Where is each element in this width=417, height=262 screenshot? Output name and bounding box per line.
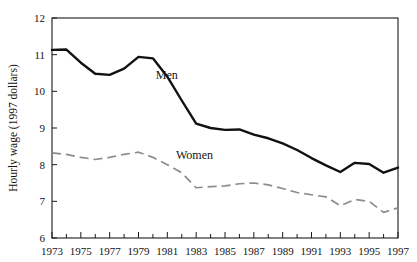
hourly-wage-line-chart: 6789101112 19731975197719791981198319851…	[0, 0, 417, 262]
y-tick-label: 7	[40, 195, 46, 207]
series-line-men	[52, 50, 398, 173]
chart-page: 6789101112 19731975197719791981198319851…	[0, 0, 417, 262]
x-tick-label: 1977	[99, 245, 122, 257]
x-axis-ticks	[52, 232, 398, 238]
plot-frame	[52, 18, 398, 238]
x-tick-label: 1975	[70, 245, 93, 257]
series-label-men: Men	[156, 68, 178, 82]
x-tick-label: 1983	[185, 245, 208, 257]
y-tick-label: 6	[40, 232, 46, 244]
series-group	[52, 50, 398, 213]
y-tick-label: 8	[40, 159, 46, 171]
x-tick-label: 1979	[128, 245, 151, 257]
x-tick-label: 1973	[41, 245, 64, 257]
x-tick-label: 1985	[214, 245, 237, 257]
x-tick-label: 1995	[358, 245, 381, 257]
x-tick-label: 1993	[329, 245, 352, 257]
series-annotations: MenWomen	[156, 68, 213, 163]
y-tick-label: 11	[34, 49, 45, 61]
y-axis-tick-labels: 6789101112	[34, 12, 46, 244]
y-tick-label: 9	[40, 122, 46, 134]
x-tick-label: 1989	[272, 245, 295, 257]
y-tick-label: 10	[34, 85, 46, 97]
y-tick-label: 12	[34, 12, 45, 24]
x-tick-label: 1997	[387, 245, 410, 257]
x-tick-label: 1991	[301, 245, 323, 257]
x-axis-tick-labels: 1973197519771979198119831985198719891991…	[41, 245, 410, 257]
series-label-women: Women	[176, 148, 213, 162]
series-line-women	[52, 152, 398, 212]
y-axis-title: Hourly wage (1997 dollars)	[7, 64, 20, 192]
x-tick-label: 1981	[156, 245, 178, 257]
x-tick-label: 1987	[243, 245, 266, 257]
